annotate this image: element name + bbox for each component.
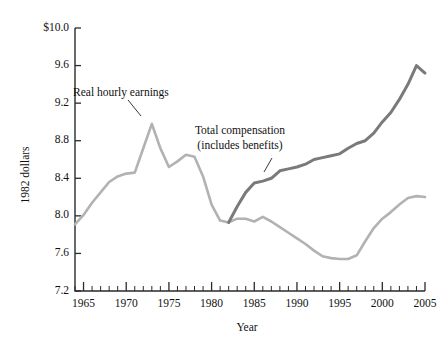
y-tick-label: 8.0 bbox=[55, 208, 70, 220]
x-tick-label: 2000 bbox=[371, 297, 394, 309]
x-tick-label: 1975 bbox=[157, 297, 180, 309]
y-tick-label: $10.0 bbox=[43, 21, 69, 33]
axis-spine bbox=[75, 28, 425, 291]
x-tick-label: 1980 bbox=[200, 297, 223, 309]
y-axis-title: 1982 dollars bbox=[19, 146, 31, 204]
chart-container: 7.27.68.08.48.89.29.6$10.0 1965197019751… bbox=[0, 0, 446, 351]
line-chart: 7.27.68.08.48.89.29.6$10.0 1965197019751… bbox=[0, 0, 446, 351]
x-tick-label: 1995 bbox=[328, 297, 351, 309]
x-tick-label: 1985 bbox=[243, 297, 266, 309]
x-tick-label: 1965 bbox=[72, 297, 95, 309]
annotation-label-2: Total compensation(includes benefits) bbox=[195, 124, 285, 152]
chart-axes bbox=[75, 28, 425, 291]
y-tick-label: 8.8 bbox=[55, 133, 70, 145]
x-axis-title: Year bbox=[236, 321, 257, 333]
annotation-leader-1 bbox=[128, 100, 141, 116]
y-axis-tick-labels: 7.27.68.08.48.89.29.6$10.0 bbox=[43, 21, 69, 296]
y-tick-label: 9.2 bbox=[55, 96, 70, 108]
y-tick-label: 8.4 bbox=[55, 171, 70, 183]
x-tick-label: 2005 bbox=[414, 297, 437, 309]
chart-tick-marks bbox=[75, 28, 425, 291]
x-tick-label: 1970 bbox=[115, 297, 138, 309]
x-axis-tick-labels: 196519701975198019851990199520002005 bbox=[72, 297, 437, 309]
y-tick-label: 7.6 bbox=[55, 246, 70, 258]
y-tick-label: 9.6 bbox=[55, 58, 70, 70]
annotation-leader-2 bbox=[264, 158, 272, 172]
x-tick-label: 1990 bbox=[285, 297, 308, 309]
annotation-label-1: Real hourly earnings bbox=[73, 86, 169, 99]
y-tick-label: 7.2 bbox=[55, 284, 70, 296]
